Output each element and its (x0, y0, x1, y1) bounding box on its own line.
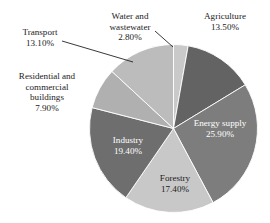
slice-label-agriculture-name: Agriculture (183, 11, 267, 22)
slice-label-transport: Transport 13.10% (4, 27, 76, 48)
slice-label-water-line1: Water and (90, 11, 170, 22)
pie-chart-figure: Agriculture 13.50% Water and wastewater … (0, 0, 270, 223)
slice-label-forestry: Forestry 17.40% (138, 173, 212, 194)
slice-label-residential-and-commercial-buildings: Residential and commercial buildings 7.9… (2, 71, 92, 113)
slice-label-forestry-name: Forestry (138, 173, 212, 184)
slice-label-energy-name: Energy supply (174, 118, 266, 129)
slice-label-transport-name: Transport (4, 27, 76, 38)
slice-label-residential-line3: buildings (2, 92, 92, 103)
slice-label-transport-value: 13.10% (4, 38, 76, 49)
slice-label-agriculture-value: 13.50% (183, 22, 267, 33)
slice-label-energy-value: 25.90% (174, 129, 266, 140)
slice-label-industry-name: Industry (92, 135, 164, 146)
slice-label-industry: Industry 19.40% (92, 135, 164, 156)
slice-label-water-value: 2.80% (90, 32, 170, 43)
slice-label-industry-value: 19.40% (92, 146, 164, 157)
slice-label-water-and-wastewater: Water and wastewater 2.80% (90, 11, 170, 43)
slice-label-residential-value: 7.90% (2, 103, 92, 114)
slice-label-residential-line2: commercial (2, 82, 92, 93)
slice-label-agriculture: Agriculture 13.50% (183, 11, 267, 32)
slice-label-water-line2: wastewater (90, 22, 170, 33)
slice-label-forestry-value: 17.40% (138, 184, 212, 195)
slice-label-residential-line1: Residential and (2, 71, 92, 82)
slice-label-energy-supply: Energy supply 25.90% (174, 118, 266, 139)
